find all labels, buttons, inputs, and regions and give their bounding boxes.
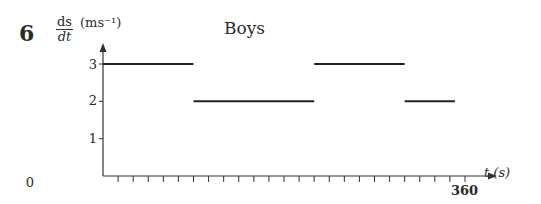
chart-plot-area — [0, 0, 541, 204]
step-series — [103, 64, 455, 101]
y-axis-arrow-icon — [100, 43, 107, 52]
x-axis-arrow-icon — [488, 173, 497, 180]
